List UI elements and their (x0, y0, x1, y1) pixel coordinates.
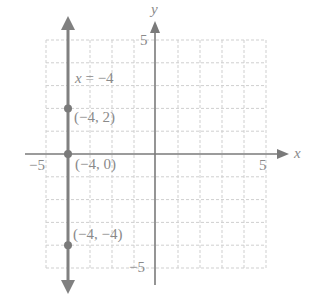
equation-value: = −4 (82, 70, 114, 86)
line-down-arrow-icon (61, 280, 75, 294)
equation-variable: x (75, 70, 82, 86)
x-axis-label: x (294, 146, 301, 161)
coordinate-graph (0, 0, 313, 308)
data-point (64, 104, 72, 112)
line-up-arrow-icon (61, 16, 75, 30)
y-tick-neg5: −5 (129, 260, 145, 275)
equation-label: x = −4 (75, 71, 114, 86)
point-label-neg4-2: (−4, 2) (74, 110, 115, 125)
y-axis-arrow-icon (150, 21, 160, 33)
x-tick-neg5: −5 (29, 158, 45, 173)
x-tick-5: 5 (259, 158, 267, 173)
y-tick-5: 5 (140, 33, 148, 48)
x-axis-arrow-icon (277, 149, 289, 159)
point-label-neg4-neg4: (−4, −4) (73, 227, 122, 242)
data-point (64, 150, 72, 158)
data-point (64, 241, 72, 249)
y-axis-label: y (151, 2, 158, 17)
point-label-neg4-0: (−4, 0) (75, 157, 116, 172)
